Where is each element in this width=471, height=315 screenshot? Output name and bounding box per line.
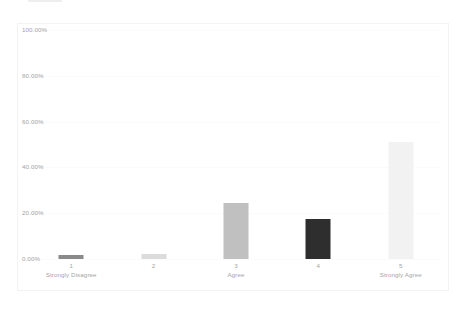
bar-slot <box>277 30 359 259</box>
x-axis-label-group: 5 Strongly Agree <box>360 261 442 280</box>
x-axis-sublabel: Agree <box>195 270 277 280</box>
x-axis-tick-label: 1 <box>30 261 112 270</box>
bar-category-3[interactable] <box>223 203 248 259</box>
x-axis-tick-label: 3 <box>195 261 277 270</box>
x-axis: 1 Strongly Disagree 2 3 Agree 4 5 Strong… <box>30 261 442 301</box>
x-axis-sublabel <box>112 270 194 280</box>
bar-category-2[interactable] <box>141 254 166 259</box>
bar-category-1[interactable] <box>59 255 84 259</box>
bar-slot <box>112 30 194 259</box>
bar-slot <box>30 30 112 259</box>
bar-slot <box>195 30 277 259</box>
x-axis-label-group: 1 Strongly Disagree <box>30 261 112 280</box>
bar-slot <box>360 30 442 259</box>
clipped-title-artifact <box>28 0 62 2</box>
x-axis-sublabel: Strongly Disagree <box>30 270 112 280</box>
x-axis-label-group: 3 Agree <box>195 261 277 280</box>
bar-category-4[interactable] <box>306 219 331 259</box>
bar-category-5[interactable] <box>388 142 413 259</box>
x-axis-sublabel: Strongly Agree <box>360 270 442 280</box>
bar-chart: 100.00% 80.00% 60.00% 40.00% 20.00% 0.00… <box>0 0 471 315</box>
x-axis-tick-label: 2 <box>112 261 194 270</box>
x-axis-tick-label: 5 <box>360 261 442 270</box>
x-axis-label-group: 2 <box>112 261 194 280</box>
x-axis-sublabel <box>277 270 359 280</box>
plot-area <box>30 30 442 259</box>
x-axis-tick-label: 4 <box>277 261 359 270</box>
x-axis-label-group: 4 <box>277 261 359 280</box>
